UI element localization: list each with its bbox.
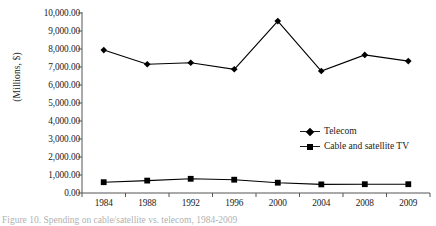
- x-axis-tick-label: 1984: [82, 198, 126, 212]
- chart-container: (Millions, $) 10,000.009,000.008,000.007…: [0, 0, 436, 226]
- x-axis-tick-label: 2008: [343, 198, 387, 212]
- x-axis-tick-label: 1996: [213, 198, 257, 212]
- data-point-marker-diamond: [101, 47, 108, 54]
- x-axis-tick-label: 2004: [300, 198, 344, 212]
- legend-marker-square-icon: [300, 142, 320, 152]
- plot-area: [0, 0, 436, 226]
- data-point-marker-square: [275, 180, 281, 186]
- data-point-marker-square: [405, 181, 411, 187]
- data-point-marker-square: [188, 176, 194, 182]
- x-axis-tick-labels: 19841988199219962000200420082009: [82, 198, 430, 212]
- legend-label-cable-and-satellite-tv: Cable and satellite TV: [324, 139, 409, 154]
- legend-item-cable-and-satellite-tv[interactable]: Cable and satellite TV: [300, 139, 409, 154]
- data-point-marker-diamond: [405, 58, 412, 65]
- data-point-marker-diamond: [361, 52, 368, 59]
- data-point-marker-square: [231, 177, 237, 183]
- legend-item-telecom[interactable]: Telecom: [300, 124, 409, 139]
- figure-caption: Figure 10. Spending on cable/satellite v…: [2, 215, 237, 225]
- data-point-marker-square: [144, 178, 150, 184]
- x-axis-tick-label: 1988: [126, 198, 170, 212]
- data-point-marker-diamond: [187, 59, 194, 66]
- x-axis-tick-label: 1992: [169, 198, 213, 212]
- x-axis-tick-label: 2000: [256, 198, 300, 212]
- legend-label-telecom: Telecom: [324, 124, 357, 139]
- data-point-marker-diamond: [144, 61, 151, 68]
- data-point-marker-square: [362, 181, 368, 187]
- x-axis-tick-label: 2009: [387, 198, 431, 212]
- data-point-marker-square: [101, 179, 107, 185]
- data-point-marker-square: [318, 182, 324, 188]
- chart-legend: Telecom Cable and satellite TV: [300, 124, 409, 154]
- legend-marker-diamond-icon: [300, 127, 320, 137]
